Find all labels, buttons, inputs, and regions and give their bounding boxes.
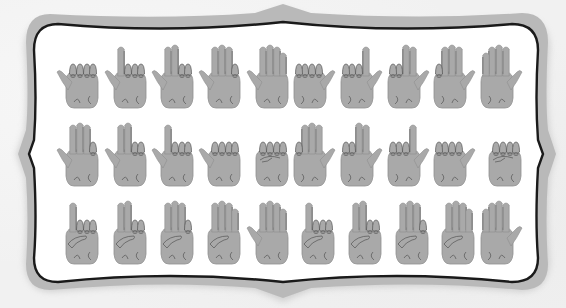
hand-gesture-r3-c2 [114,201,146,264]
hand-gesture-r3-c9 [442,201,474,264]
hand-gesture-r1-c5 [247,45,288,108]
hand-gesture-r2-c7 [341,123,382,186]
hand-gesture-r1-c1 [57,64,98,108]
hand-gesture-r1-c3 [152,45,193,108]
hand-gesture-r2-c5 [256,142,288,186]
hand-gesture-r3-c1 [66,203,98,264]
hand-gesture-r2-c1 [57,123,98,186]
hand-gesture-r2-c6 [294,123,335,186]
hand-gesture-r3-c3 [161,201,193,264]
hand-gesture-r3-c7 [349,201,381,264]
hand-gesture-r2-c8 [388,125,429,186]
hand-gesture-r1-c4 [199,45,240,108]
hand-gesture-r2-c2 [105,123,146,186]
hand-gesture-r1-c7 [341,47,382,108]
hand-gesture-r3-c10 [481,201,522,264]
hand-gesture-r1-c2 [105,47,146,108]
hand-gesture-illustration [0,0,566,308]
hand-gesture-r1-c6 [294,64,335,108]
hand-gesture-r1-c10 [481,45,522,108]
hand-gesture-r3-c8 [396,201,428,264]
hand-gesture-r3-c5 [247,201,288,264]
hand-grid [0,0,566,308]
hand-gesture-r1-c9 [434,45,475,108]
hand-gesture-r2-c3 [152,125,193,186]
hand-gesture-r1-c8 [388,45,429,108]
hand-gesture-r2-c4 [199,142,240,186]
hand-gesture-r3-c6 [302,203,334,264]
hand-gesture-r3-c4 [208,201,240,264]
hand-gesture-r2-c10 [489,142,521,186]
hand-gesture-r2-c9 [434,142,475,186]
